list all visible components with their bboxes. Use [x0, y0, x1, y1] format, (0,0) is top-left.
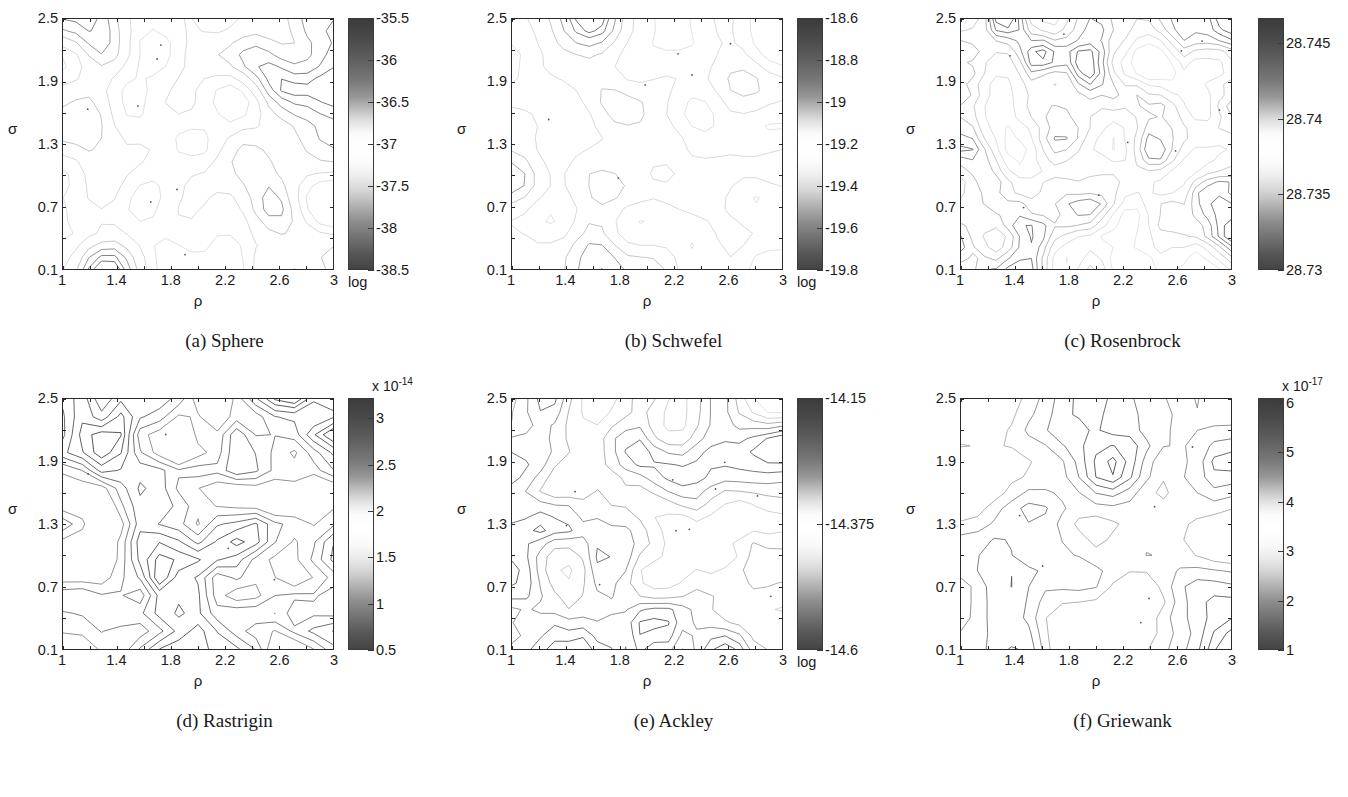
- x-tick: 3: [314, 652, 354, 668]
- colorbar-tick-mark: [817, 60, 823, 61]
- x-tick: 2.2: [205, 652, 245, 668]
- y-tick-labels: 0.10.71.31.92.5: [457, 18, 507, 270]
- x-tick-labels: 11.41.82.22.63: [960, 652, 1232, 672]
- colorbar-tick: -19.8: [825, 262, 858, 278]
- colorbar-tick: 3: [1286, 543, 1294, 559]
- panel-ackley: σ0.10.71.31.92.511.41.82.22.63ρ-14.15-14…: [449, 380, 898, 777]
- colorbar-tick-mark: [368, 144, 374, 145]
- x-tick-labels: 11.41.82.22.63: [511, 652, 783, 672]
- colorbar-tick: -14.15: [825, 390, 866, 406]
- x-tick: 2.2: [1103, 652, 1143, 668]
- x-tick: 1.4: [545, 272, 585, 288]
- multiplier-text: x 10: [372, 378, 398, 394]
- colorbar-tick: -19.2: [825, 136, 858, 152]
- contour-plot-area: [511, 398, 783, 650]
- colorbar-tick: -18.6: [825, 10, 858, 26]
- colorbar-tick-mark: [817, 186, 823, 187]
- colorbar-multiplier: x 10-17: [1282, 376, 1323, 394]
- y-tick: 1.9: [463, 453, 507, 469]
- colorbar-tick-mark: [1278, 43, 1284, 44]
- panel-griewank: σ0.10.71.31.92.511.41.82.22.63ρx 10-1765…: [898, 380, 1347, 777]
- colorbar-tick-mark: [1278, 270, 1284, 271]
- multiplier-text: x 10: [1282, 378, 1308, 394]
- colorbar-tick: 2.5: [376, 457, 396, 473]
- colorbar-tick: 6: [1286, 395, 1294, 411]
- colorbar-ticks: -18.6-18.8-19-19.2-19.4-19.6-19.8: [825, 18, 905, 270]
- colorbar-ticks: 32.521.510.5: [376, 398, 456, 650]
- colorbar-tick: 2: [376, 503, 384, 519]
- x-tick: 3: [1212, 272, 1252, 288]
- x-axis-label: ρ: [511, 292, 783, 309]
- y-tick: 1.3: [14, 516, 58, 532]
- y-tick: 1.9: [463, 73, 507, 89]
- colorbar-tick: 1: [1286, 642, 1294, 658]
- colorbar-log-label: log: [797, 274, 816, 290]
- colorbar-tick: -36: [376, 52, 397, 68]
- x-tick: 1.8: [1049, 652, 1089, 668]
- contour-plot-area: [511, 18, 783, 270]
- x-tick: 1.8: [600, 272, 640, 288]
- colorbar-log-label: log: [348, 274, 367, 290]
- colorbar-tick: -37: [376, 136, 397, 152]
- colorbar-multiplier: x 10-14: [372, 376, 413, 394]
- x-tick: 2.6: [260, 272, 300, 288]
- y-tick: 2.5: [14, 390, 58, 406]
- colorbar-tick-mark: [368, 228, 374, 229]
- colorbar-tick-mark: [368, 511, 374, 512]
- x-tick: 1.4: [994, 272, 1034, 288]
- colorbar-tick-mark: [368, 18, 374, 19]
- colorbar-tick-mark: [1278, 601, 1284, 602]
- multiplier-exponent: -17: [1308, 376, 1322, 387]
- x-tick: 1.8: [600, 652, 640, 668]
- x-tick: 1.8: [151, 272, 191, 288]
- colorbar-tick: 1.5: [376, 549, 396, 565]
- y-tick: 0.7: [463, 199, 507, 215]
- x-tick: 2.2: [654, 272, 694, 288]
- colorbar-tick-mark: [817, 102, 823, 103]
- colorbar-tick-mark: [1278, 551, 1284, 552]
- y-tick: 1.3: [463, 516, 507, 532]
- x-axis-label: ρ: [62, 292, 334, 309]
- x-tick: 2.6: [1158, 272, 1198, 288]
- colorbar-tick-mark: [1278, 194, 1284, 195]
- colorbar-tick: -35.5: [376, 10, 409, 26]
- x-tick: 2.6: [260, 652, 300, 668]
- colorbar-tick-mark: [817, 650, 823, 651]
- x-axis-label: ρ: [511, 672, 783, 689]
- y-tick: 1.3: [463, 136, 507, 152]
- y-tick: 1.9: [912, 453, 956, 469]
- colorbar-tick-mark: [1278, 452, 1284, 453]
- colorbar-tick-mark: [368, 557, 374, 558]
- contour-plot-area: [62, 18, 334, 270]
- y-tick: 0.7: [912, 199, 956, 215]
- panel-caption: (f) Griewank: [898, 710, 1347, 732]
- colorbar-tick: -19: [825, 94, 846, 110]
- x-tick: 1.8: [151, 652, 191, 668]
- colorbar-tick-mark: [817, 398, 823, 399]
- x-tick: 2.2: [654, 652, 694, 668]
- colorbar-tick-mark: [368, 418, 374, 419]
- contour-plot-area: [62, 398, 334, 650]
- y-tick-labels: 0.10.71.31.92.5: [8, 398, 58, 650]
- contour-figure: σ0.10.71.31.92.511.41.82.22.63ρ-35.5-36-…: [0, 0, 1348, 797]
- y-tick: 0.7: [912, 579, 956, 595]
- y-tick: 0.7: [14, 199, 58, 215]
- y-tick: 1.3: [912, 516, 956, 532]
- colorbar-tick-mark: [368, 650, 374, 651]
- x-tick: 1: [42, 652, 82, 668]
- colorbar-tick: 28.73: [1286, 262, 1322, 278]
- x-tick: 1.4: [96, 652, 136, 668]
- plot-rosenbrock: σ0.10.71.31.92.511.41.82.22.63ρ28.74528.…: [898, 0, 1347, 318]
- y-tick: 2.5: [463, 390, 507, 406]
- plot-rastrigin: σ0.10.71.31.92.511.41.82.22.63ρx 10-1432…: [0, 380, 449, 698]
- x-tick: 1: [491, 272, 531, 288]
- colorbar-tick-mark: [817, 270, 823, 271]
- colorbar-tick-mark: [368, 270, 374, 271]
- panel-grid: σ0.10.71.31.92.511.41.82.22.63ρ-35.5-36-…: [0, 0, 1348, 777]
- colorbar-tick: -38: [376, 220, 397, 236]
- plot-ackley: σ0.10.71.31.92.511.41.82.22.63ρ-14.15-14…: [449, 380, 898, 698]
- plot-sphere: σ0.10.71.31.92.511.41.82.22.63ρ-35.5-36-…: [0, 0, 449, 318]
- colorbar-tick: -14.6: [825, 642, 858, 658]
- y-tick: 1.9: [14, 453, 58, 469]
- colorbar-tick: 4: [1286, 494, 1294, 510]
